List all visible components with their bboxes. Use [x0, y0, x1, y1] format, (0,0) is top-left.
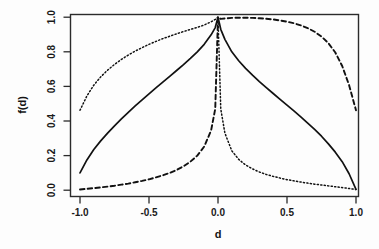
x-tick-label-1: -0.5	[140, 207, 158, 218]
chart-series-group	[80, 17, 356, 189]
x-axis-tick-labels: -1.0 -0.5 0.0 0.5 1.0	[71, 207, 363, 218]
x-axis-ticks	[80, 197, 356, 204]
y-axis-title: f(d)	[16, 96, 28, 114]
x-tick-label-3: 0.5	[280, 207, 294, 218]
figure-canvas: 0.0 0.2 0.4 0.6 0.8 1.0 -1.0 -0.5 0.0 0.…	[0, 0, 379, 249]
y-tick-label-2: 0.4	[46, 114, 57, 128]
line-chart: 0.0 0.2 0.4 0.6 0.8 1.0 -1.0 -0.5 0.0 0.…	[0, 0, 379, 249]
y-tick-label-5: 1.0	[46, 10, 57, 24]
y-axis-tick-labels: 0.0 0.2 0.4 0.6 0.8 1.0	[46, 10, 57, 197]
x-tick-label-4: 1.0	[349, 207, 363, 218]
y-tick-label-4: 0.8	[46, 44, 57, 58]
x-axis-title: d	[215, 228, 222, 240]
x-tick-label-0: -1.0	[71, 207, 89, 218]
y-axis-ticks	[64, 17, 71, 190]
y-tick-label-3: 0.6	[46, 79, 57, 93]
series-dashed-curve	[80, 17, 356, 189]
y-tick-label-0: 0.0	[46, 183, 57, 197]
y-tick-label-1: 0.2	[46, 148, 57, 162]
x-tick-label-2: 0.0	[211, 207, 225, 218]
